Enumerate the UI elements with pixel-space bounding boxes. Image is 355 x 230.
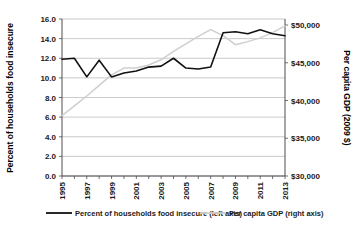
left-axis-tick-label: 0.0 bbox=[45, 172, 57, 181]
right-axis-tick-label: $50,000 bbox=[291, 21, 320, 30]
right-axis-title: Per capita GDP (2009 $) bbox=[342, 50, 352, 145]
x-axis-tick-label: 2005 bbox=[182, 181, 191, 199]
left-axis-tick-label: 6.0 bbox=[45, 113, 57, 122]
left-axis-tick-label: 14.0 bbox=[40, 35, 56, 44]
chart-legend: Percent of households food insecure (lef… bbox=[46, 209, 324, 218]
right-axis-tick-label: $35,000 bbox=[291, 134, 320, 143]
left-axis-tick-label: 12.0 bbox=[40, 54, 56, 63]
right-axis-tick-label: $45,000 bbox=[291, 59, 320, 68]
x-axis-tick-label: 2001 bbox=[132, 181, 141, 199]
chart-container: 0.02.04.06.08.010.012.014.016.0 $30,000$… bbox=[0, 0, 355, 230]
left-axis-tick-label: 4.0 bbox=[45, 133, 57, 142]
left-axis-title: Percent of households food insecure bbox=[5, 23, 15, 173]
x-axis-tick-label: 1995 bbox=[58, 181, 67, 199]
right-axis-tick-label: $40,000 bbox=[291, 97, 320, 106]
x-axis-tick-label: 2007 bbox=[207, 181, 216, 199]
left-axis-tick-label: 16.0 bbox=[40, 15, 56, 24]
x-axis-tick-label: 2009 bbox=[231, 181, 240, 199]
x-axis-tick-label: 1999 bbox=[108, 181, 117, 199]
x-axis-tick-label: 1997 bbox=[83, 181, 92, 199]
left-axis-tick-label: 10.0 bbox=[40, 74, 56, 83]
dual-axis-line-chart: 0.02.04.06.08.010.012.014.016.0 $30,000$… bbox=[0, 0, 355, 230]
left-axis-tick-label: 8.0 bbox=[45, 94, 57, 103]
x-axis-tick-label: 2003 bbox=[157, 181, 166, 199]
x-axis-tick-label: 2011 bbox=[256, 181, 265, 199]
legend-label-per-capita-gdp: Per capita GDP (right axis) bbox=[229, 209, 324, 218]
left-axis-tick-label: 2.0 bbox=[45, 152, 57, 161]
right-axis-tick-label: $30,000 bbox=[291, 172, 320, 181]
x-axis-tick-label: 2013 bbox=[281, 181, 290, 199]
